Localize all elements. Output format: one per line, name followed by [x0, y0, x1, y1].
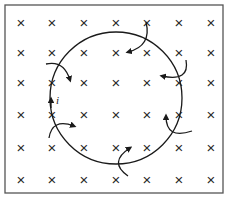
field-x-mark: × — [112, 139, 121, 156]
field-x-mark: × — [143, 139, 152, 156]
field-x-mark: × — [48, 14, 57, 31]
field-x-mark: × — [143, 44, 152, 61]
field-x-mark: × — [17, 106, 26, 123]
field-x-mark: × — [143, 106, 152, 123]
field-x-mark: × — [175, 14, 184, 31]
field-x-mark: × — [207, 14, 216, 31]
current-label-i: i — [56, 94, 59, 106]
field-x-mark: × — [48, 171, 57, 188]
field-x-mark: × — [112, 14, 121, 31]
field-x-mark: × — [207, 139, 216, 156]
field-into-page-marks: ××××××××××××××××××××××××××××××××××××××××… — [17, 14, 216, 188]
field-x-mark: × — [207, 171, 216, 188]
field-x-mark: × — [175, 44, 184, 61]
field-x-mark: × — [80, 171, 89, 188]
field-x-mark: × — [143, 171, 152, 188]
field-x-mark: × — [175, 171, 184, 188]
field-x-mark: × — [17, 171, 26, 188]
field-x-mark: × — [112, 44, 121, 61]
field-x-mark: × — [207, 74, 216, 91]
field-x-mark: × — [207, 44, 216, 61]
field-x-mark: × — [48, 139, 57, 156]
magnetic-field-loop-diagram: ××××××××××××××××××××××××××××××××××××××××… — [0, 0, 230, 198]
field-x-mark: × — [48, 44, 57, 61]
field-x-mark: × — [175, 139, 184, 156]
field-x-mark: × — [112, 106, 121, 123]
field-x-mark: × — [175, 106, 184, 123]
field-x-mark: × — [80, 14, 89, 31]
field-x-mark: × — [80, 74, 89, 91]
field-x-mark: × — [80, 44, 89, 61]
field-region-frame — [5, 5, 223, 193]
field-x-mark: × — [17, 44, 26, 61]
field-x-mark: × — [112, 74, 121, 91]
field-x-mark: × — [17, 139, 26, 156]
field-x-mark: × — [17, 14, 26, 31]
field-x-mark: × — [112, 171, 121, 188]
field-x-mark: × — [17, 74, 26, 91]
field-x-mark: × — [143, 74, 152, 91]
field-x-mark: × — [207, 106, 216, 123]
field-x-mark: × — [80, 106, 89, 123]
